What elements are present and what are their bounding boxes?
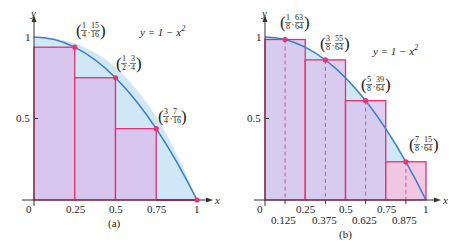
svg-text:,: , (421, 140, 423, 149)
y-tick-0.5: 0.5 (247, 112, 261, 124)
svg-text:,: , (170, 112, 172, 121)
point-label: ( 3 8 , 55 64 ) (320, 34, 350, 53)
x-tick-mid: 0.625 (352, 214, 377, 226)
svg-text:): ) (344, 34, 350, 53)
point-label: ( 1 8 , 63 64 ) (280, 13, 310, 32)
svg-text:3: 3 (326, 34, 330, 43)
x-tick-mid: 0.375 (312, 214, 337, 226)
point-marker (323, 57, 328, 62)
svg-text:64: 64 (376, 84, 384, 93)
svg-text:1: 1 (286, 13, 290, 22)
x-tick-mid: 0.125 (271, 214, 296, 226)
svg-text:3: 3 (131, 54, 135, 63)
x-axis-arrow-icon (206, 198, 213, 203)
svg-text:8: 8 (286, 22, 290, 31)
x-axis-label: x (442, 194, 448, 206)
point-marker (363, 98, 368, 103)
y-tick-1: 1 (25, 31, 31, 43)
caption-b: (b) (339, 228, 352, 241)
point-marker (403, 159, 408, 164)
svg-text:55: 55 (335, 34, 343, 43)
y-axis-label: y (261, 7, 267, 19)
point-label: ( 1 4 , 15 16 ) (76, 21, 106, 40)
y-tick-0.5: 0.5 (16, 112, 30, 124)
x-axis-label: x (214, 194, 220, 206)
svg-text:,: , (332, 39, 334, 48)
svg-text:5: 5 (367, 75, 371, 84)
x-tick: 1 (423, 203, 429, 215)
svg-text:64: 64 (424, 144, 432, 153)
svg-text:): ) (304, 13, 310, 32)
svg-text:1: 1 (82, 21, 86, 30)
rectangles (265, 40, 426, 201)
point-marker (154, 126, 159, 131)
svg-text:): ) (385, 75, 391, 94)
svg-text:16: 16 (91, 30, 99, 39)
svg-text:): ) (433, 135, 439, 154)
svg-text:39: 39 (376, 75, 384, 84)
svg-text:8: 8 (367, 84, 371, 93)
caption-a: (a) (108, 217, 121, 230)
svg-text:15: 15 (424, 135, 432, 144)
svg-text:4: 4 (131, 63, 135, 72)
x-axis-arrow-icon (434, 198, 441, 203)
svg-text:8: 8 (415, 144, 419, 153)
svg-text:4: 4 (82, 30, 86, 39)
svg-text:1: 1 (122, 54, 126, 63)
riemann-sum-figure: y x 1 0.5 0 0.25 0.5 0.75 1 y = 1 − x2 (… (0, 0, 467, 250)
equation-label: y = 1 − x2 (139, 24, 185, 38)
x-tick: 0.75 (147, 203, 167, 215)
svg-text:,: , (373, 80, 375, 89)
svg-text:64: 64 (335, 43, 343, 52)
svg-text:7: 7 (415, 135, 419, 144)
svg-text:,: , (292, 18, 294, 27)
svg-text:64: 64 (295, 22, 303, 31)
svg-text:63: 63 (295, 13, 303, 22)
x-tick: 0.5 (109, 203, 123, 215)
equation-label: y = 1 − x2 (372, 43, 418, 57)
svg-text:): ) (100, 21, 106, 40)
y-tick-1: 1 (256, 31, 262, 43)
svg-text:15: 15 (91, 21, 99, 30)
point-label: ( 5 8 , 39 64 ) (361, 75, 391, 94)
svg-text:16: 16 (173, 116, 181, 125)
panel-b: y x 1 0.5 0 0.25 0.5 0.75 1 0.125 0.375 … (247, 7, 448, 241)
panel-a: y x 1 0.5 0 0.25 0.5 0.75 1 y = 1 − x2 (… (16, 7, 220, 230)
svg-text:,: , (128, 59, 130, 68)
x-tick: 0 (26, 203, 32, 215)
svg-text:8: 8 (326, 43, 330, 52)
x-tick: 0.25 (66, 203, 86, 215)
y-axis-label: y (30, 7, 36, 19)
x-tick: 1 (194, 203, 200, 215)
point-marker (113, 75, 118, 80)
point-label: ( 1 2 , 3 4 ) (116, 54, 142, 73)
point-marker (194, 197, 199, 202)
svg-text:3: 3 (164, 107, 168, 116)
point-marker (283, 37, 288, 42)
svg-text:): ) (181, 107, 187, 126)
svg-text:): ) (136, 54, 142, 73)
point-label: ( 7 8 , 15 64 ) (409, 135, 439, 154)
x-tick-mid: 0.875 (392, 214, 417, 226)
x-tick: 0 (257, 203, 263, 215)
point-label: ( 3 4 , 7 16 ) (158, 107, 187, 126)
svg-text:,: , (88, 26, 90, 35)
point-marker (72, 45, 77, 50)
svg-text:2: 2 (122, 63, 126, 72)
svg-text:7: 7 (173, 107, 177, 116)
svg-text:4: 4 (164, 116, 168, 125)
